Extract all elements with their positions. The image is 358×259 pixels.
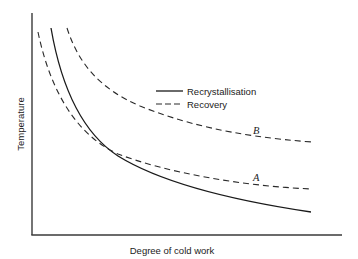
y-axis-label: Temperature bbox=[15, 97, 26, 150]
curve-label-a: A bbox=[252, 172, 260, 183]
curve-label-b: B bbox=[253, 125, 260, 136]
legend: Recrystallisation Recovery bbox=[156, 86, 256, 110]
chart-canvas: Degree of cold work Temperature B A Recr… bbox=[0, 0, 358, 259]
legend-label-recrystallisation: Recrystallisation bbox=[187, 86, 256, 97]
x-axis-label: Degree of cold work bbox=[130, 245, 215, 256]
legend-label-recovery: Recovery bbox=[187, 99, 227, 110]
